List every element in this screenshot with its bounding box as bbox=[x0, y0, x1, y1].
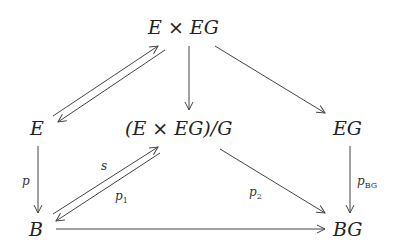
node-quotient: (E × EG)/G bbox=[125, 119, 232, 138]
node-e: E bbox=[30, 119, 44, 138]
label-s: s bbox=[101, 160, 107, 172]
arrow-e-to-product bbox=[53, 46, 158, 116]
arrow-product-to-eg bbox=[215, 46, 325, 113]
node-eg: EG bbox=[333, 119, 362, 138]
arrow-s bbox=[53, 147, 158, 214]
arrow-p2 bbox=[220, 149, 325, 213]
label-p1-sub: 1 bbox=[123, 196, 128, 205]
arrow-p1 bbox=[56, 153, 160, 221]
label-pbg-base: p bbox=[357, 174, 365, 188]
label-p2-sub: 2 bbox=[257, 192, 262, 201]
label-pbg-sub: BG bbox=[365, 181, 377, 190]
node-b: B bbox=[29, 220, 43, 239]
label-p2-base: p bbox=[249, 185, 257, 199]
label-pbg: pBG bbox=[357, 175, 377, 190]
arrow-product-to-e bbox=[58, 50, 165, 122]
node-bg: BG bbox=[333, 220, 363, 239]
label-p2: p2 bbox=[249, 186, 262, 201]
node-product: E × EG bbox=[148, 18, 219, 37]
label-p: p bbox=[22, 175, 30, 187]
label-p1-base: p bbox=[115, 189, 123, 203]
label-p1: p1 bbox=[115, 190, 128, 205]
